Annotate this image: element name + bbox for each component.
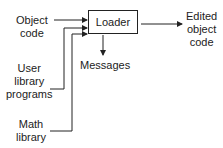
loader-box: Loader — [88, 10, 138, 34]
output-edited-code: Editedobjectcode — [186, 10, 217, 49]
loader-label: Loader — [96, 16, 130, 28]
input-user-library: Userlibraryprograms — [6, 62, 52, 101]
input-math-library: Mathlibrary — [16, 118, 46, 144]
input-object-code: Objectcode — [16, 14, 48, 40]
messages-label: Messages — [80, 59, 130, 72]
loader-diagram: Loader Objectcode Userlibraryprograms Ma… — [0, 0, 223, 148]
